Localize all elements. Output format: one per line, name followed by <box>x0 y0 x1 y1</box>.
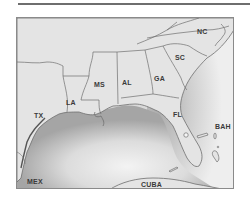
label-sc: SC <box>175 54 185 61</box>
label-fl: FL <box>173 111 182 118</box>
label-tx: TX <box>34 112 43 119</box>
map-frame: NC SC GA AL MS LA TX FL BAH MEX CUBA <box>16 17 234 189</box>
label-ms: MS <box>94 81 105 88</box>
label-nc: NC <box>197 28 208 35</box>
label-mex: MEX <box>27 178 43 185</box>
label-al: AL <box>122 79 132 86</box>
label-la: LA <box>66 99 76 106</box>
lake-okeechobee <box>184 133 188 137</box>
label-cuba: CUBA <box>141 181 162 188</box>
label-bah: BAH <box>215 123 231 130</box>
label-ga: GA <box>154 75 165 82</box>
top-rule <box>18 3 250 5</box>
map-svg <box>17 18 234 189</box>
